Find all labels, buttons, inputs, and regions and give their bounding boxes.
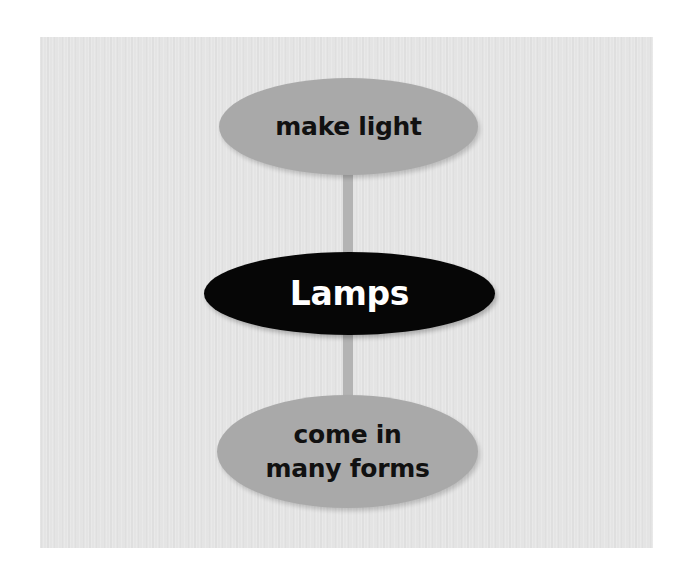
node-come-in-many-forms: come in many forms [217,395,478,508]
node-label: come in many forms [265,418,429,486]
node-make-light: make light [219,78,478,175]
connector-center-to-bottom [343,330,353,400]
node-label: make light [275,110,421,144]
node-center-lamps: Lamps [204,252,495,335]
center-node-label: Lamps [290,274,409,313]
connector-center-to-top [343,170,353,258]
